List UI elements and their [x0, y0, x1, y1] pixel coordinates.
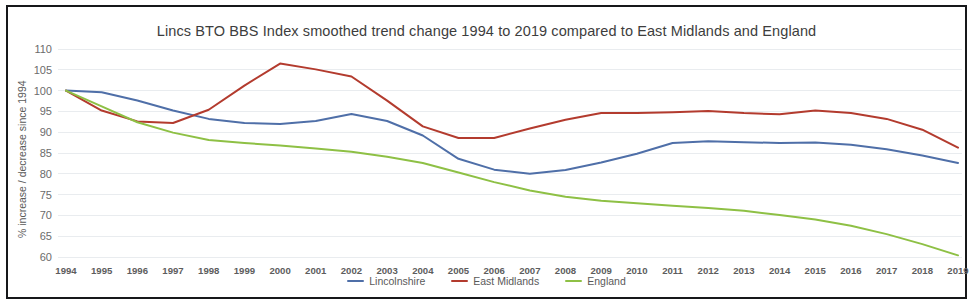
legend-item-label: England: [587, 275, 626, 287]
series-line-england: [66, 91, 958, 256]
y-axis-tick-label: 60: [40, 251, 52, 263]
data-series-group: [66, 64, 958, 256]
y-axis-tick-label: 80: [40, 168, 52, 180]
y-axis-tick-label: 110: [34, 43, 52, 55]
legend-item-lincolnshire[interactable]: Lincolnshire: [347, 275, 425, 287]
legend-item-england[interactable]: England: [565, 275, 626, 287]
y-axis-tick-label: 90: [40, 126, 52, 138]
chart-frame: Lincs BTO BBS Index smoothed trend chang…: [6, 5, 967, 299]
y-axis-tick-label: 85: [40, 147, 52, 159]
y-axis-tick-label: 75: [40, 189, 52, 201]
legend-item-label: East Midlands: [473, 275, 539, 287]
y-axis-tick-label: 95: [40, 105, 52, 117]
legend-swatch-icon: [347, 280, 364, 282]
y-axis-tick-label: 70: [40, 209, 52, 221]
y-axis-tick-labels: 1101051009590858075706560: [34, 43, 52, 263]
y-axis-tick-label: 105: [34, 64, 52, 76]
legend-swatch-icon: [451, 280, 468, 282]
legend-swatch-icon: [565, 280, 582, 282]
line-chart-plot: 1101051009590858075706560 19941995199619…: [8, 7, 969, 301]
chart-legend: LincolnshireEast MidlandsEngland: [8, 275, 965, 287]
legend-item-label: Lincolnshire: [369, 275, 425, 287]
gridlines-group: [58, 49, 962, 257]
y-axis-tick-label: 100: [34, 85, 52, 97]
chart-figure: Lincs BTO BBS Index smoothed trend chang…: [0, 0, 973, 306]
series-line-east-midlands: [66, 64, 958, 148]
legend-item-east-midlands[interactable]: East Midlands: [451, 275, 539, 287]
y-axis-tick-label: 65: [40, 230, 52, 242]
